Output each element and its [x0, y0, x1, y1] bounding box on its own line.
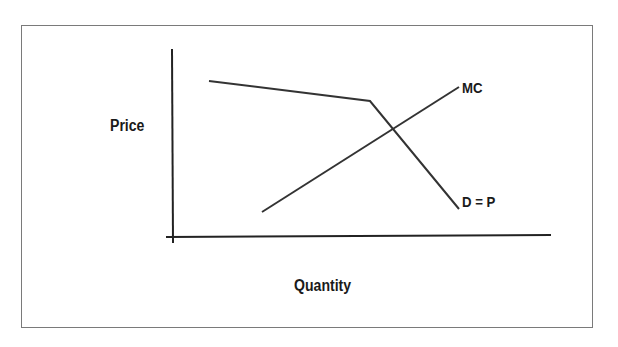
- x-axis: [166, 235, 551, 237]
- mc-curve-label: MC: [462, 80, 483, 95]
- demand-curve-label: D = P: [462, 194, 495, 209]
- marginal-cost-curve: [262, 87, 459, 212]
- kinked-demand-diagram: [0, 0, 618, 347]
- demand-curve: [209, 81, 459, 209]
- y-axis: [172, 49, 173, 243]
- y-axis-label: Price: [110, 118, 144, 134]
- x-axis-label: Quantity: [294, 278, 351, 294]
